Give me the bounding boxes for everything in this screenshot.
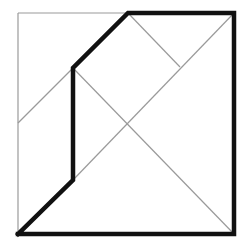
geometry-diagram <box>0 0 242 240</box>
diagonal-main-line <box>73 68 234 234</box>
top-connector-line <box>128 13 180 67</box>
left-edge-connector-line <box>18 68 73 123</box>
diagonal-anti-line <box>73 13 234 180</box>
